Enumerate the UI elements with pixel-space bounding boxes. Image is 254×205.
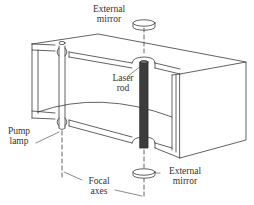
pump-lamp	[57, 41, 67, 129]
focal-axes-label: Focal axes	[84, 176, 114, 196]
laser-rod-line2: rod	[108, 83, 138, 93]
bottom-external-mirror	[133, 169, 155, 178]
pump-lamp-line1: Pump	[4, 126, 34, 136]
external-mirror-bottom-label: External mirror	[158, 166, 212, 186]
pump-lamp-line2: lamp	[4, 136, 34, 146]
focal-axes-line1: Focal	[84, 176, 114, 186]
external-mirror-top-line1: External	[82, 4, 136, 14]
pump-lamp-label: Pump lamp	[4, 126, 34, 146]
laser-rod-label: Laser rod	[108, 73, 138, 93]
laser-rod	[140, 61, 148, 148]
lower-slab	[32, 102, 180, 158]
pump-lamp-leader	[36, 132, 59, 143]
external-mirror-top-label: External mirror	[82, 4, 136, 24]
cavity-block-outline	[32, 34, 246, 158]
laser-rod-line1: Laser	[108, 73, 138, 83]
focal-axes-line2: axes	[84, 186, 114, 196]
external-mirror-bottom-line1: External	[158, 166, 212, 176]
focal-axes-leader-left	[64, 172, 82, 180]
external-mirror-top-line2: mirror	[82, 14, 136, 24]
laser-cavity-diagram	[0, 0, 254, 205]
external-mirror-bottom-line2: mirror	[158, 176, 212, 186]
focal-axes-leader-right	[115, 190, 142, 196]
